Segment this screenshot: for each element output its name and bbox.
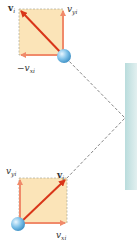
upper-velocity-diagram: vi vyi −vxi <box>7 3 77 74</box>
lower-velocity-diagram: vyi vi vxi <box>6 166 67 241</box>
upper-vyi-label: vyi <box>67 4 77 16</box>
lower-ball <box>11 217 25 231</box>
lower-vxi-label: vxi <box>56 230 66 241</box>
trajectory-path <box>66 58 125 179</box>
wall <box>125 63 137 190</box>
lower-vyi-label: vyi <box>6 166 16 178</box>
upper-vi-label: vi <box>7 3 15 14</box>
collision-diagram: vi vyi −vxi vyi vi vxi <box>0 0 137 246</box>
upper-ball <box>57 49 71 63</box>
lower-vi-label: vi <box>56 170 64 181</box>
upper-neg-vxi-label: −vxi <box>17 63 35 74</box>
